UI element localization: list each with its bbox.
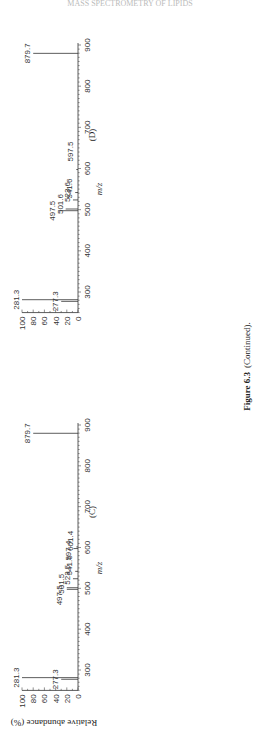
peak-label: 601.4 [66,530,75,551]
abundance-tick-label: 20 [63,316,72,325]
mz-tick-label: 500 [83,581,92,595]
mz-axis-label: m/z [94,561,104,574]
mz-tick-label: 400 [83,622,92,636]
figure-caption: Figure 6.3 (Continued). [242,322,252,411]
peak-label: 541.6 [65,178,74,199]
mz-tick-label: 300 [83,285,92,299]
abundance-tick-label: 40 [52,694,61,703]
figure-6-3: MASS SPECTROMETRY OF LIPIDS 300400500600… [0,0,261,744]
mz-tick-label: 400 [83,244,92,258]
caption-label: Figure 6.3 [242,372,252,411]
panel-title: (C) [87,506,97,518]
abundance-tick-label: 100 [18,316,27,330]
peak-label: 879.7 [23,43,32,64]
abundance-tick-label: 60 [40,316,49,325]
mz-axis-label: m/z [94,182,104,195]
panel-c-spectrum: 300400500600700800900m/z020406080100Rela… [11,418,104,729]
mz-tick-label: 800 [83,459,92,473]
mz-tick-label: 900 [83,38,92,52]
abundance-tick-label: 0 [74,694,83,699]
mz-tick-label: 300 [83,663,92,677]
peak-label: 281.3 [12,667,21,688]
peak-label: 277.3 [51,291,60,312]
peak-label: 281.3 [12,289,21,310]
panel-d-spectrum: 300400500600700800900m/z020406080100(D)2… [12,38,104,330]
caption-text: (Continued). [242,322,252,368]
mz-tick-label: 600 [83,161,92,175]
mz-tick-label: 500 [83,202,92,216]
abundance-tick-label: 100 [18,694,27,708]
peak-label: 597.5 [66,141,75,162]
peak-label: 277.3 [51,669,60,690]
abundance-tick-label: 20 [63,694,72,703]
abundance-tick-label: 80 [29,694,38,703]
abundance-tick-label: 40 [52,316,61,325]
panel-title: (D) [87,129,97,142]
mz-tick-label: 600 [83,540,92,554]
mz-tick-label: 900 [83,418,92,432]
abundance-axis-label: Relative abundance (%) [11,718,97,728]
abundance-tick-label: 60 [40,694,49,703]
mz-tick-label: 800 [83,79,92,93]
peak-label: 879.7 [23,423,32,444]
abundance-tick-label: 80 [29,316,38,325]
running-header: MASS SPECTROMETRY OF LIPIDS [67,0,192,8]
abundance-tick-label: 0 [74,316,83,321]
